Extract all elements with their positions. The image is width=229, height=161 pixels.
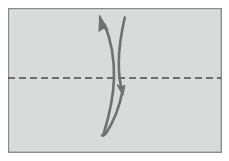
diagram-canvas	[0, 0, 229, 161]
origami-diagram	[0, 0, 229, 161]
